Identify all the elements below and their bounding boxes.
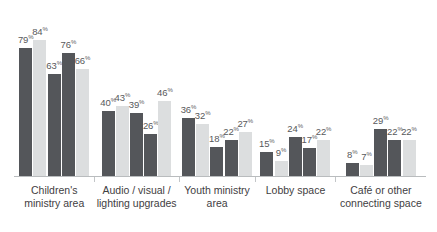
- axis-tick: [255, 177, 256, 182]
- bar-wrapper: 15%: [260, 0, 273, 176]
- bar-value-label: 24%: [287, 123, 303, 134]
- bar-wrapper: 27%: [239, 0, 252, 176]
- bar-wrapper: 46%: [158, 0, 171, 176]
- bar: [33, 40, 46, 176]
- bar-wrapper: 84%: [33, 0, 46, 176]
- bar-value-label: 63%: [46, 60, 62, 71]
- bar-wrapper: 22%: [317, 0, 330, 176]
- bar: [116, 106, 129, 176]
- bar: [144, 134, 157, 176]
- bar-wrapper: 63%: [48, 0, 61, 176]
- bar-wrapper: 26%: [144, 0, 157, 176]
- bar-value-label: 26%: [143, 120, 159, 131]
- bar: [403, 140, 416, 176]
- bar-value-label: 22%: [401, 126, 417, 137]
- bar-value-label: 29%: [373, 115, 389, 126]
- category-label: Audio / visual / lighting upgrades: [94, 184, 178, 209]
- bar-value-label: 66%: [75, 55, 91, 66]
- bar: [210, 147, 223, 176]
- bar: [374, 129, 387, 176]
- plot-area: 79%84%63%76%66%40%43%39%26%46%36%32%18%2…: [0, 0, 437, 177]
- x-axis-line: [14, 176, 426, 177]
- bar-wrapper: 36%: [182, 0, 195, 176]
- bar: [289, 137, 302, 176]
- bar-group: 8%7%29%22%22%: [335, 0, 426, 176]
- bar-group: 79%84%63%76%66%: [14, 0, 94, 176]
- category-label: Youth ministry area: [179, 184, 256, 209]
- bar: [388, 140, 401, 176]
- bar-wrapper: 22%: [225, 0, 238, 176]
- bar-chart: 79%84%63%76%66%40%43%39%26%46%36%32%18%2…: [0, 0, 437, 232]
- bar-wrapper: 8%: [346, 0, 359, 176]
- bar-value-label: 84%: [32, 26, 48, 37]
- bar: [19, 48, 32, 176]
- bar-value-label: 15%: [259, 138, 275, 149]
- bar: [76, 69, 89, 176]
- bar-value-label: 8%: [347, 149, 358, 160]
- bar-wrapper: 22%: [403, 0, 416, 176]
- bar-group: 40%43%39%26%46%: [94, 0, 178, 176]
- bar: [130, 113, 143, 176]
- bar-wrapper: 43%: [116, 0, 129, 176]
- bar-groups: 79%84%63%76%66%40%43%39%26%46%36%32%18%2…: [14, 0, 426, 176]
- bar: [346, 163, 359, 176]
- bar-wrapper: 39%: [130, 0, 143, 176]
- bar-value-label: 7%: [361, 151, 372, 162]
- bar-group: 15%9%24%17%22%: [255, 0, 335, 176]
- bar: [225, 140, 238, 176]
- bar-wrapper: 24%: [289, 0, 302, 176]
- bar-group: 36%32%18%22%27%: [179, 0, 255, 176]
- axis-tick: [335, 177, 336, 182]
- bar-wrapper: 18%: [210, 0, 223, 176]
- category-labels: Children's ministry areaAudio / visual /…: [14, 184, 426, 209]
- bar: [48, 74, 61, 176]
- bar-wrapper: 7%: [360, 0, 373, 176]
- bar-wrapper: 9%: [275, 0, 288, 176]
- bar: [62, 53, 75, 176]
- bar-value-label: 76%: [61, 39, 77, 50]
- bar: [158, 101, 171, 176]
- category-label: Café or other connecting space: [336, 184, 426, 209]
- bar: [303, 148, 316, 176]
- bar-value-label: 9%: [276, 147, 287, 158]
- bar-wrapper: 22%: [388, 0, 401, 176]
- bar-wrapper: 79%: [19, 0, 32, 176]
- bar: [196, 124, 209, 176]
- bar: [182, 118, 195, 176]
- category-label: Children's ministry area: [14, 184, 94, 209]
- bar: [317, 140, 330, 176]
- bar-value-label: 22%: [316, 126, 332, 137]
- bar: [239, 132, 252, 176]
- bar-wrapper: 29%: [374, 0, 387, 176]
- bar-value-label: 32%: [195, 110, 211, 121]
- bar-value-label: 46%: [157, 87, 173, 98]
- category-label: Lobby space: [255, 184, 335, 209]
- bar-wrapper: 17%: [303, 0, 316, 176]
- bar-value-label: 39%: [129, 99, 145, 110]
- bar: [102, 111, 115, 176]
- bar-wrapper: 40%: [102, 0, 115, 176]
- axis-tick: [179, 177, 180, 182]
- bar: [260, 152, 273, 176]
- bar: [275, 161, 288, 176]
- bar-wrapper: 32%: [196, 0, 209, 176]
- bar: [360, 165, 373, 176]
- bar-value-label: 27%: [237, 118, 253, 129]
- bar-wrapper: 66%: [76, 0, 89, 176]
- axis-tick: [94, 177, 95, 182]
- bar-wrapper: 76%: [62, 0, 75, 176]
